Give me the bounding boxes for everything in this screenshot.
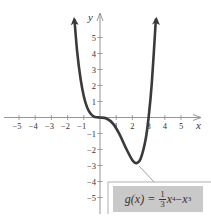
y-tick-label: −1 — [87, 129, 96, 139]
formula-lhs: g(x) = — [125, 192, 155, 207]
y-tick-label: 3 — [92, 65, 96, 75]
y-tick-label: 4 — [92, 49, 97, 59]
x-tick-label: 5 — [179, 121, 183, 131]
x-tick-label: −4 — [29, 121, 39, 131]
x-tick-label: −5 — [12, 121, 21, 131]
x-tick-label: −3 — [45, 121, 54, 131]
x-axis-label: x — [195, 119, 201, 131]
curve-arrowheads — [71, 17, 160, 26]
function-graph: −5−4−3−2−112345−5−4−3−2−112345 x y — [0, 0, 211, 217]
y-tick-label: 2 — [92, 81, 96, 91]
curve-g-of-x — [74, 19, 155, 163]
y-tick-label: 1 — [92, 97, 96, 107]
y-tick-label: −3 — [87, 161, 96, 171]
y-tick-label: −5 — [87, 193, 96, 203]
function-label: g(x) = 1 3 x4 − x3 — [113, 186, 203, 212]
y-tick-label: −2 — [87, 145, 96, 155]
y-tick-label: 5 — [92, 33, 96, 43]
x-tick-label: −1 — [77, 121, 86, 131]
x-tick-label: −2 — [61, 121, 70, 131]
x-tick-label: 2 — [130, 121, 134, 131]
y-axis-label: y — [87, 11, 93, 23]
y-tick-label: −4 — [87, 177, 97, 187]
x-tick-label: 4 — [163, 121, 168, 131]
axes — [4, 13, 201, 214]
annotation-leader-line — [139, 166, 154, 182]
formula-fraction: 1 3 — [159, 190, 166, 209]
